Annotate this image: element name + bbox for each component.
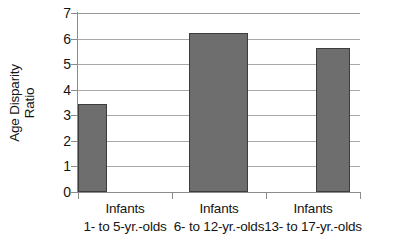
x-axis-tick-mark (266, 193, 267, 199)
y-axis-tick-label: 0 (49, 185, 71, 199)
x-axis-line (70, 192, 361, 193)
x-axis-category-label: Infants13- to 17-yr.-olds (248, 200, 378, 236)
y-axis-tick-mark (71, 90, 77, 91)
y-axis-tick-label: 7 (49, 6, 71, 20)
gridline (78, 13, 360, 14)
y-axis-tick-label: 4 (49, 83, 71, 97)
x-axis-tick-labels: Infants1- to 5-yr.-oldsInfants6- to 12-y… (0, 200, 411, 251)
y-axis-tick-label: 2 (49, 134, 71, 148)
x-axis-tick-mark (360, 193, 361, 199)
bar (316, 48, 350, 192)
plot-area (78, 13, 360, 192)
y-axis-tick-label: 1 (49, 159, 71, 173)
y-axis-tick-label: 5 (49, 57, 71, 71)
y-axis-tick-mark (71, 166, 77, 167)
y-axis-title: Age Disparity Ratio (2, 18, 42, 188)
y-axis-title-line-1: Age Disparity (7, 64, 22, 142)
y-axis-tick-mark (71, 192, 77, 193)
y-axis-tick-mark (71, 13, 77, 14)
bar (78, 104, 107, 192)
x-axis-tick-mark (172, 193, 173, 199)
x-axis-category-label-line-1: Infants (248, 200, 378, 218)
y-axis-tick-mark (71, 39, 77, 40)
y-axis-tick-mark (71, 141, 77, 142)
y-axis-tick-label: 3 (49, 108, 71, 122)
x-axis-tick-mark (78, 193, 79, 199)
y-axis-tick-mark (71, 115, 77, 116)
x-axis-category-label-line-2: 13- to 17-yr.-olds (248, 218, 378, 236)
y-axis-tick-label: 6 (49, 32, 71, 46)
y-axis-tick-mark (71, 64, 77, 65)
y-axis-title-line-2: Ratio (22, 64, 37, 142)
bar (189, 33, 248, 192)
bar-chart-figure: Age Disparity Ratio 01234567 Infants1- t… (0, 0, 411, 251)
